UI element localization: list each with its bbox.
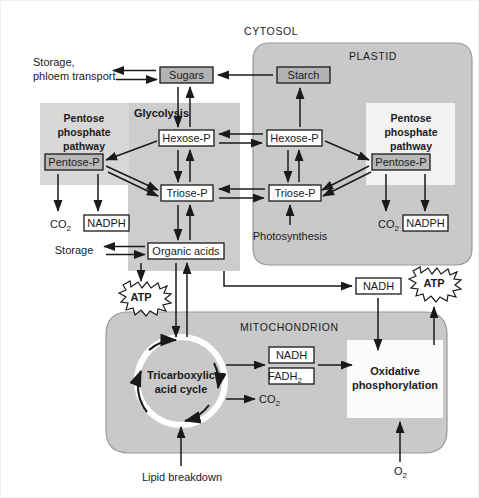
label-starch: Starch — [288, 69, 320, 81]
label-atp-glycolysis: ATP — [130, 291, 151, 303]
label-pentose-phosphate-pathway-cytosol: Pentose phosphate pathway — [57, 112, 110, 152]
svg-text:phloem transport: phloem transport — [33, 70, 116, 82]
svg-text:Oxidative: Oxidative — [370, 365, 420, 377]
label-pentose-p-plastid: Pentose-P — [375, 156, 426, 168]
label-nadh-cytosol: NADH — [363, 280, 394, 292]
label-cytosol: CYTOSOL — [244, 25, 298, 37]
label-triose-p-plastid: Triose-P — [274, 187, 315, 199]
label-triose-p-cytosol: Triose-P — [166, 187, 207, 199]
label-hexose-p-plastid: Hexose-P — [270, 132, 318, 144]
label-nadph-plastid: NADPH — [406, 217, 445, 229]
label-nadph-cytosol: NADPH — [87, 217, 126, 229]
svg-text:Pentose: Pentose — [391, 112, 432, 124]
label-pentose-p-cytosol: Pentose-P — [48, 156, 99, 168]
svg-text:pathway: pathway — [390, 140, 432, 152]
label-storage: Storage — [55, 244, 94, 256]
label-photosynthesis: Photosynthesis — [253, 230, 328, 242]
label-mitochondrion: MITOCHONDRION — [240, 321, 339, 333]
svg-text:Tricarboxylic: Tricarboxylic — [147, 369, 215, 381]
label-organic-acids: Organic acids — [152, 245, 220, 257]
svg-text:Pentose: Pentose — [64, 112, 105, 124]
label-atp-oxphos: ATP — [423, 277, 444, 289]
metabolism-diagram: CYTOSOL PLASTID MITOCHONDRION Glycolysis… — [0, 0, 479, 498]
label-glycolysis: Glycolysis — [134, 107, 189, 119]
label-pentose-phosphate-pathway-plastid: Pentose phosphate pathway — [384, 112, 437, 152]
label-nadh-mitochondrion: NADH — [276, 349, 307, 361]
label-plastid: PLASTID — [349, 50, 397, 62]
svg-text:acid cycle: acid cycle — [155, 383, 208, 395]
label-lipid-breakdown: Lipid breakdown — [142, 471, 222, 483]
tca-cycle-disc — [140, 340, 222, 422]
svg-text:pathway: pathway — [63, 140, 105, 152]
figure-canvas: CYTOSOL PLASTID MITOCHONDRION Glycolysis… — [0, 0, 479, 498]
svg-text:phosphate: phosphate — [384, 126, 437, 138]
svg-text:phosphate: phosphate — [57, 126, 110, 138]
label-hexose-p-cytosol: Hexose-P — [162, 132, 210, 144]
svg-text:phosphorylation: phosphorylation — [352, 379, 438, 391]
svg-text:Storage,: Storage, — [33, 56, 75, 68]
label-sugars: Sugars — [169, 69, 204, 81]
